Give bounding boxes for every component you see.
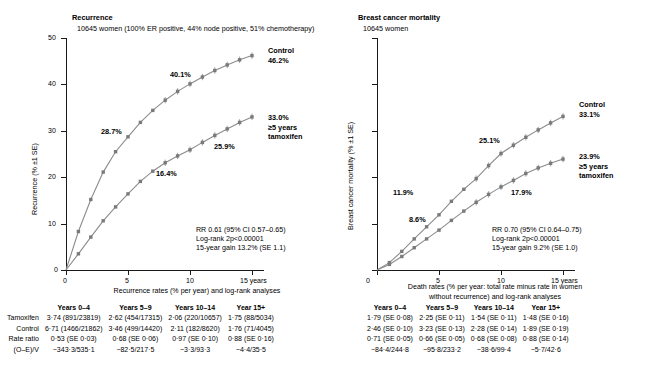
control-legend-name: Control <box>579 100 605 109</box>
cell: 3·74 (891/23819) <box>42 313 106 323</box>
cell: 0·71 (SE 0·05) <box>364 334 416 344</box>
cell: 0·68 (SE 0·08) <box>468 334 520 344</box>
control-mid-label-5y: 28.7% <box>101 127 122 136</box>
cell: 1·89 (SE 0·19) <box>520 324 572 334</box>
control-mid-label-5y: 11.9% <box>393 188 413 197</box>
col-head-years-10-14: Years 10–14 <box>165 303 225 313</box>
recurrence-rr: RR 0.61 (95% CI 0.57–0.65) <box>196 226 286 235</box>
cell: 1·54 (SE 0·11) <box>468 313 520 323</box>
col-head-year-15plus: Year 15+ <box>520 303 572 313</box>
cell: 1·79 (SE 0·08) <box>364 313 416 323</box>
tamoxifen-mid-label-5y: 8.6% <box>409 215 426 224</box>
col-head-years-10-14: Years 10–14 <box>468 303 520 313</box>
col-head-year-15plus: Year 15+ <box>225 303 277 313</box>
table-row: 1·79 (SE 0·08) 2·25 (SE 0·11) 1·54 (SE 0… <box>364 313 572 323</box>
cell: 3·23 (SE 0·13) <box>416 324 468 334</box>
control-end-value: 33.1% <box>579 110 600 119</box>
mortality-logrank: Log-rank 2p<0.00001 <box>492 235 582 244</box>
tamoxifen-mid-label-10y: 17.9% <box>511 188 532 197</box>
table-row: 2·46 (SE 0·10) 3·23 (SE 0·13) 2·28 (SE 0… <box>364 324 572 334</box>
mortality-curves <box>331 0 651 300</box>
row-label-control: Control <box>4 324 42 334</box>
col-head-years-5-9: Years 5–9 <box>106 303 166 313</box>
table-row: 0·71 (SE 0·05) 0·66 (SE 0·05) 0·68 (SE 0… <box>364 334 572 344</box>
tamoxifen-legend-name: ≥5 years tamoxifen <box>579 162 639 180</box>
cell: 0·97 (SE 0·10) <box>165 334 225 344</box>
col-head-years-5-9: Years 5–9 <box>416 303 468 313</box>
cell: 2·06 (220/10657) <box>165 313 225 323</box>
cell: −84·4/244·8 <box>364 345 416 355</box>
cell: 0·66 (SE 0·05) <box>416 334 468 344</box>
left-data-table: Years 0–4 Years 5–9 Years 10–14 Year 15+… <box>4 303 277 355</box>
cell: 0·53 (SE 0·03) <box>42 334 106 344</box>
recurrence-gain: 15-year gain 13.2% (SE 1.1) <box>196 244 286 253</box>
table-header-row: Years 0–4 Years 5–9 Years 10–14 Year 15+ <box>4 303 277 313</box>
cell: 0·88 (SE 0·16) <box>225 334 277 344</box>
table-row: −84·4/244·8 −95·8/233·2 −38·6/99·4 −5·7/… <box>364 345 572 355</box>
mortality-panel: Breast cancer mortality 10645 women Brea… <box>331 0 651 300</box>
cell: 0·88 (SE 0·14) <box>520 334 572 344</box>
cell: 0·68 (SE 0·06) <box>106 334 166 344</box>
right-table-caption-line1: Death rates (% per year: total rate minu… <box>345 282 645 292</box>
control-mid-label-10y: 40.1% <box>170 70 191 79</box>
control-mid-label-10y: 25.1% <box>479 136 500 145</box>
table-row: Control 6·71 (1466/21862) 3·46 (499/1442… <box>4 324 277 334</box>
cell: −82·5/217·5 <box>106 345 166 355</box>
cell: 1·75 (88/5034) <box>225 313 277 323</box>
table-row: Rate ratio 0·53 (SE 0·03) 0·68 (SE 0·06)… <box>4 334 277 344</box>
cell: 6·71 (1466/21862) <box>42 324 106 334</box>
cell: −4·4/35·5 <box>225 345 277 355</box>
cell: −343·3/535·1 <box>42 345 106 355</box>
cell: 1·48 (SE 0·16) <box>520 313 572 323</box>
left-table-caption: Recurrence rates (% per year) and log-ra… <box>72 287 322 295</box>
control-end-value: 46.2% <box>268 56 289 65</box>
cell: 2·11 (182/8620) <box>165 324 225 334</box>
row-label-tamoxifen: Tamoxifen <box>4 313 42 323</box>
cell: 2·25 (SE 0·11) <box>416 313 468 323</box>
recurrence-curves <box>0 0 331 300</box>
cell: −38·6/99·4 <box>468 345 520 355</box>
cell: 2·28 (SE 0·14) <box>468 324 520 334</box>
cell: −3·3/93·3 <box>165 345 225 355</box>
recurrence-panel: Recurrence 10645 women (100% ER positive… <box>0 0 331 300</box>
col-head-years-0-4: Years 0–4 <box>42 303 106 313</box>
right-table-caption-line2: without recurrence) and log-rank analyse… <box>345 292 645 302</box>
tamoxifen-legend-name: ≥5 years tamoxifen <box>268 123 328 141</box>
cell: 2·62 (454/17315) <box>106 313 166 323</box>
tamoxifen-end-value: 33.0% <box>268 113 289 122</box>
tamoxifen-mid-label-5y: 16.4% <box>156 169 177 178</box>
tamoxifen-mid-label-10y: 25.9% <box>214 142 235 151</box>
table-row: Tamoxifen 3·74 (891/23819) 2·62 (454/173… <box>4 313 277 323</box>
cell: −95·8/233·2 <box>416 345 468 355</box>
cell: 1·76 (71/4045) <box>225 324 277 334</box>
table-row: (O–E)/V −343·3/535·1 −82·5/217·5 −3·3/93… <box>4 345 277 355</box>
tamoxifen-end-value: 23.9% <box>579 152 600 161</box>
recurrence-logrank: Log-rank 2p<0.00001 <box>196 235 286 244</box>
row-label-o-e-v: (O–E)/V <box>4 345 42 355</box>
mortality-gain: 15-year gain 9.2% (SE 1.0) <box>492 244 582 253</box>
mortality-rr: RR 0.70 (95% CI 0.64–0.75) <box>492 226 582 235</box>
col-head-blank <box>4 303 42 313</box>
cell: 3·46 (499/14420) <box>106 324 166 334</box>
cell: −5·7/42·6 <box>520 345 572 355</box>
row-label-rate-ratio: Rate ratio <box>4 334 42 344</box>
control-legend-name: Control <box>268 46 294 55</box>
col-head-years-0-4: Years 0–4 <box>364 303 416 313</box>
right-data-table: Years 0–4 Years 5–9 Years 10–14 Year 15+… <box>364 303 572 355</box>
cell: 2·46 (SE 0·10) <box>364 324 416 334</box>
table-header-row: Years 0–4 Years 5–9 Years 10–14 Year 15+ <box>364 303 572 313</box>
